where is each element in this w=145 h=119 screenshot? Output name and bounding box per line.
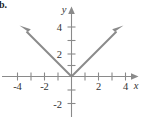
x-tick-label--2: -2: [40, 81, 49, 92]
y-axis-group: [68, 7, 75, 118]
coordinate-plane-plot: -4 -2 2 4 4 2 -2 x y: [0, 0, 145, 119]
x-tick-label-2: 2: [96, 81, 101, 92]
y-tick-label-2: 2: [57, 49, 62, 60]
x-axis-label: x: [133, 80, 139, 91]
y-axis-label: y: [61, 4, 67, 15]
y-tick-label--2: -2: [53, 99, 62, 110]
y-tick-label-4: 4: [57, 22, 63, 33]
curve-right-branch: [72, 32, 117, 77]
x-tick-label-4: 4: [123, 81, 129, 92]
x-axis-arrowhead: [131, 73, 139, 80]
x-tick-label--4: -4: [13, 81, 22, 92]
curve-right-arrowhead: [112, 26, 123, 32]
y-axis-arrowhead: [68, 7, 75, 15]
curve-left-arrowhead: [20, 26, 31, 32]
figure-container: b.: [0, 0, 145, 119]
curve-left-branch: [27, 32, 72, 77]
